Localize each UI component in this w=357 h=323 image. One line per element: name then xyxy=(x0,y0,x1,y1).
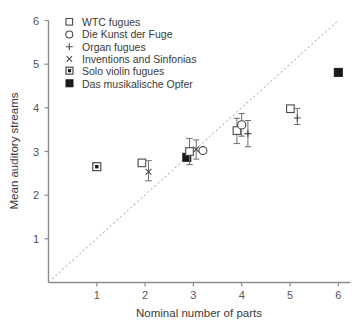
scatter-plot: 6 5 4 3 2 1 1 2 3 4 5 6 xyxy=(0,0,357,323)
y-tick-label-5: 5 xyxy=(33,58,39,70)
point-opfer-6 xyxy=(334,68,342,76)
legend-item-solo-violin-fugues[interactable]: Solo violin fugues xyxy=(66,65,164,77)
legend-marker-semi-filled-square-core xyxy=(68,69,71,72)
x-axis-ticks: 1 2 3 4 5 6 xyxy=(94,283,342,302)
legend: WTC fugues Die Kunst der Fuge Organ fugu… xyxy=(66,16,197,90)
legend-marker-open-square xyxy=(66,19,73,26)
legend-item-das-musikalische-opfer[interactable]: Das musikalische Opfer xyxy=(66,78,193,90)
point-inventions-3 xyxy=(193,140,199,159)
chart-figure: 6 5 4 3 2 1 1 2 3 4 5 6 xyxy=(0,0,357,323)
marker-plus xyxy=(294,115,301,122)
point-wtc-2 xyxy=(138,159,146,167)
legend-item-organ-fugues[interactable]: Organ fugues xyxy=(66,41,146,53)
legend-item-inventions-and-sinfonias[interactable]: Inventions and Sinfonias xyxy=(67,53,197,65)
marker-open-circle xyxy=(238,121,246,129)
point-solo-violin-1 xyxy=(93,163,101,171)
x-tick-label-1: 1 xyxy=(94,289,100,301)
y-axis-ticks: 6 5 4 3 2 1 xyxy=(33,15,49,245)
marker-open-circle xyxy=(199,147,207,155)
marker-open-square xyxy=(287,105,295,113)
legend-label-inventions-and-sinfonias: Inventions and Sinfonias xyxy=(82,53,196,65)
marker-plus xyxy=(244,130,251,137)
x-tick-label-6: 6 xyxy=(335,289,341,301)
legend-label-wtc-fugues: WTC fugues xyxy=(82,16,140,28)
legend-marker-filled-square xyxy=(66,80,73,87)
legend-label-die-kunst-der-fuge: Die Kunst der Fuge xyxy=(82,28,173,40)
y-axis-title: Mean auditory streams xyxy=(8,92,20,209)
point-wtc-5 xyxy=(287,105,295,113)
y-tick-label-3: 3 xyxy=(33,146,39,158)
legend-label-organ-fugues: Organ fugues xyxy=(82,41,146,53)
y-tick-label-1: 1 xyxy=(33,233,39,245)
y-tick-label-2: 2 xyxy=(33,189,39,201)
marker-filled-square xyxy=(334,68,342,76)
x-axis-title: Nominal number of parts xyxy=(136,307,262,319)
x-tick-label-3: 3 xyxy=(190,289,196,301)
marker-open-square xyxy=(186,148,194,156)
y-tick-label-6: 6 xyxy=(33,15,39,27)
legend-marker-cross xyxy=(67,56,72,61)
legend-marker-open-circle xyxy=(66,31,73,38)
x-tick-label-5: 5 xyxy=(287,289,293,301)
marker-open-square xyxy=(138,159,146,167)
legend-marker-plus xyxy=(66,43,73,50)
marker-semi-filled-square-core xyxy=(95,165,98,168)
x-tick-label-2: 2 xyxy=(142,289,148,301)
legend-item-die-kunst-der-fuge[interactable]: Die Kunst der Fuge xyxy=(66,28,173,40)
legend-label-solo-violin-fugues: Solo violin fugues xyxy=(82,65,164,77)
legend-item-wtc-fugues[interactable]: WTC fugues xyxy=(66,16,140,28)
legend-label-das-musikalische-opfer: Das musikalische Opfer xyxy=(82,78,193,90)
y-tick-label-4: 4 xyxy=(33,102,39,114)
point-kunst-3 xyxy=(199,147,207,155)
point-organ-5 xyxy=(294,108,301,124)
x-tick-label-4: 4 xyxy=(239,289,245,301)
